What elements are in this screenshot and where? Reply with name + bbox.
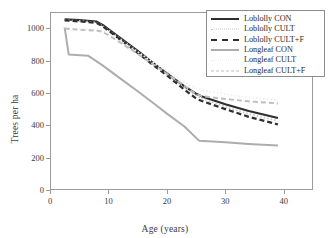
x-tick-label: 10 (104, 196, 113, 206)
legend-item[interactable]: Loblolly CULT+F (210, 35, 320, 45)
legend-line-icon (210, 24, 240, 34)
legend-label: Loblolly CON (244, 14, 292, 24)
y-tick-label: 200 (14, 153, 44, 163)
y-tick-mark (46, 28, 50, 29)
legend-label: Loblolly CULT (244, 24, 295, 34)
x-tick-label: 0 (48, 196, 52, 206)
y-tick-label: 800 (14, 56, 44, 66)
legend-line-icon (210, 66, 240, 76)
legend-label: Longleaf CON (244, 45, 293, 55)
legend-item[interactable]: Longleaf CON (210, 45, 320, 55)
legend-line-icon (210, 14, 240, 24)
line-chart: Trees per ha 02004006008001000 010203040… (0, 0, 330, 238)
x-axis-title: Age (years) (0, 224, 330, 234)
x-tick-mark (50, 190, 51, 194)
chart-legend: Loblolly CONLoblolly CULTLoblolly CULT+F… (206, 10, 325, 77)
x-axis-tick-labels: 010203040 (0, 192, 330, 212)
legend-line-icon (210, 55, 240, 65)
legend-item[interactable]: Loblolly CON (210, 14, 320, 24)
y-tick-mark (46, 93, 50, 94)
legend-item[interactable]: Longleaf CULT+F (210, 65, 320, 75)
x-tick-label: 30 (221, 196, 230, 206)
y-tick-mark (46, 125, 50, 126)
legend-label: Loblolly CULT+F (244, 35, 304, 45)
legend-label: Longleaf CULT (244, 55, 296, 65)
legend-item[interactable]: Longleaf CULT (210, 55, 320, 65)
x-tick-mark (225, 190, 226, 194)
y-tick-mark (46, 158, 50, 159)
x-tick-label: 40 (280, 196, 289, 206)
x-tick-label: 20 (163, 196, 172, 206)
y-tick-mark (46, 61, 50, 62)
legend-label: Longleaf CULT+F (244, 66, 305, 76)
x-tick-mark (284, 190, 285, 194)
legend-line-icon (210, 35, 240, 45)
y-tick-label: 1000 (14, 23, 44, 33)
y-tick-label: 400 (14, 120, 44, 130)
y-tick-label: 600 (14, 88, 44, 98)
legend-line-icon (210, 45, 240, 55)
legend-item[interactable]: Loblolly CULT (210, 24, 320, 34)
x-tick-mark (167, 190, 168, 194)
x-tick-mark (108, 190, 109, 194)
